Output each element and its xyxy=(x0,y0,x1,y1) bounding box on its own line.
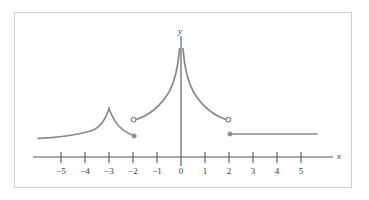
tick-label-5: 5 xyxy=(291,166,311,176)
tick-label--2: −2 xyxy=(123,166,143,176)
curve-middle-left-branch xyxy=(135,49,180,121)
tick-label-4: 4 xyxy=(267,166,287,176)
curve-left-branch xyxy=(38,109,134,139)
tick-label--1: −1 xyxy=(147,166,167,176)
tick-label--4: −4 xyxy=(75,166,95,176)
tick-label-2: 2 xyxy=(219,166,239,176)
closed-endpoint-left-branch xyxy=(132,134,136,138)
tick-label--5: −5 xyxy=(51,166,71,176)
tick-label-3: 3 xyxy=(243,166,263,176)
open-endpoint-middle-right-branch xyxy=(226,117,231,122)
tick-label--3: −3 xyxy=(99,166,119,176)
closed-endpoint-right-ray xyxy=(228,132,232,136)
x-axis-label: x xyxy=(337,151,341,161)
tick-label-1: 1 xyxy=(195,166,215,176)
open-endpoint-middle-left-branch xyxy=(131,117,136,122)
curve-middle-right-branch xyxy=(183,49,228,121)
figure-container: y x −5 −4 −3 −2 −1 0 1 2 3 4 5 xyxy=(0,0,369,200)
tick-label-0: 0 xyxy=(171,166,191,176)
y-axis-label: y xyxy=(178,26,182,36)
